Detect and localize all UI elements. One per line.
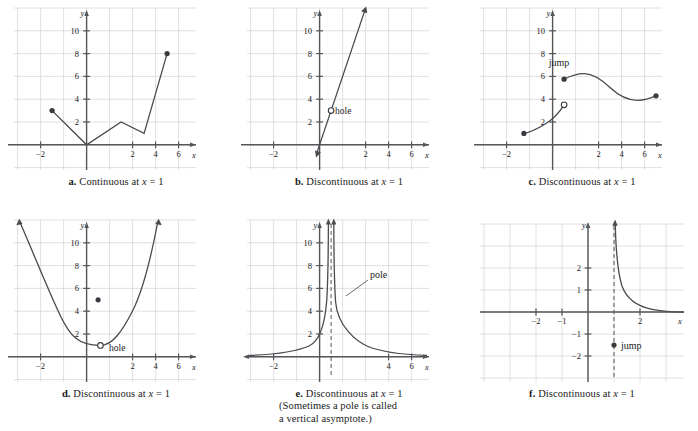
open-point-marker: [328, 108, 334, 114]
panel-c-caption: c. Discontinuous at x = 1: [466, 176, 698, 188]
panel-b-label: b.: [295, 176, 304, 187]
x-axis-label: x: [191, 150, 196, 160]
x-axis-label: x: [657, 150, 662, 160]
closed-point-marker: [165, 51, 170, 56]
svg-text:2: 2: [308, 329, 312, 339]
closed-point-marker: [611, 342, 616, 347]
x-axis-label: x: [191, 362, 196, 372]
panel-e-caption-line3: a vertical asymptote.): [233, 413, 465, 425]
x-axis-arrow-left: [243, 355, 249, 360]
panel-c-caption-eq: = 1: [619, 176, 636, 187]
y-axis-arrow: [84, 10, 89, 16]
panel-e-label: e.: [295, 388, 303, 399]
panel-d-caption: d. Discontinuous at x = 1: [0, 388, 232, 400]
grid-lines: [247, 220, 429, 382]
svg-text:6: 6: [308, 283, 312, 293]
hole-annotation: hole: [335, 106, 351, 116]
svg-text:10: 10: [304, 26, 313, 36]
panel-c: −2 2 4 6 2 4 6 8 10 x y jump c. Disconti…: [466, 0, 698, 215]
svg-text:6: 6: [308, 71, 312, 81]
panel-c-caption-text: Discontinuous at: [539, 176, 614, 187]
svg-text:−1: −1: [572, 329, 581, 339]
axes: [247, 226, 429, 382]
x-axis-arrow: [656, 143, 662, 148]
figure-sheet: −2 2 4 6 2 4 6 8 10 x y a. Continuous at…: [0, 0, 698, 431]
closed-point-marker: [562, 77, 567, 82]
panel-e-plot: −2 4 6 2 4 6 8 10 x y pole: [233, 212, 465, 390]
svg-text:4: 4: [619, 149, 624, 159]
x-axis-arrow: [190, 143, 196, 148]
svg-text:6: 6: [75, 283, 79, 293]
svg-text:−2: −2: [572, 351, 581, 361]
svg-text:−1: −1: [557, 316, 566, 326]
svg-text:10: 10: [537, 26, 546, 36]
curve-pole-right: [334, 224, 427, 356]
y-axis-arrow: [317, 222, 322, 228]
curve-parabola: [21, 224, 158, 346]
panel-e-caption-line2: (Sometimes a pole is called: [233, 400, 465, 412]
y-axis-label: y: [581, 220, 586, 230]
svg-text:8: 8: [75, 261, 79, 271]
svg-text:6: 6: [409, 361, 413, 371]
panel-e-caption-eq: = 1: [386, 388, 403, 399]
axes: [8, 226, 196, 382]
closed-point-marker: [96, 297, 101, 302]
svg-text:8: 8: [541, 49, 545, 59]
jump-annotation: jump: [620, 340, 642, 351]
x-axis-arrow: [190, 355, 196, 360]
y-axis-label: y: [80, 220, 85, 230]
y-axis-arrow: [550, 10, 555, 16]
curve-arrow-left-branch: [326, 219, 331, 225]
svg-text:8: 8: [308, 261, 312, 271]
panel-b: −2 2 4 6 2 4 6 8 10 x y hole b. Disconti…: [233, 0, 465, 215]
svg-text:6: 6: [176, 361, 180, 371]
svg-text:10: 10: [71, 238, 80, 248]
curve-hyperbola-branch: [615, 225, 684, 312]
panel-b-caption-eq: = 1: [386, 176, 403, 187]
panel-a-label: a.: [68, 176, 76, 187]
grid-lines: [14, 8, 196, 170]
closed-point-marker: [50, 108, 55, 113]
svg-text:6: 6: [75, 71, 79, 81]
panel-f-label: f.: [529, 388, 535, 399]
pole-annotation: pole: [370, 269, 388, 280]
panel-f-caption-eq: = 1: [618, 388, 635, 399]
svg-text:−2: −2: [36, 149, 45, 159]
hole-annotation: hole: [109, 343, 125, 353]
svg-text:2: 2: [638, 316, 642, 326]
panel-a-caption-eq: = 1: [147, 176, 164, 187]
svg-text:2: 2: [75, 117, 79, 127]
open-point-marker: [561, 102, 567, 108]
x-axis-label: x: [424, 362, 429, 372]
curve-arrow-right-branch: [331, 219, 336, 225]
axes: [8, 14, 196, 170]
svg-text:2: 2: [577, 263, 581, 273]
panel-c-label: c.: [528, 176, 536, 187]
panel-f: −2 −1 2 1 2 −1 −2 x y jump f. Discontinu…: [466, 212, 698, 427]
panel-d-label: d.: [62, 388, 71, 399]
svg-text:−2: −2: [36, 361, 45, 371]
svg-text:4: 4: [153, 149, 158, 159]
y-axis-label: y: [313, 8, 318, 18]
y-axis-arrow: [317, 10, 322, 16]
panel-a-caption-text: Continuous at: [79, 176, 142, 187]
svg-text:−2: −2: [269, 149, 278, 159]
panel-d: −2 2 4 6 2 4 6 8 10 x y hole d. Disconti…: [0, 212, 232, 427]
svg-text:6: 6: [541, 71, 545, 81]
tick-labels: −2 2 4 6 2 4 6 8 10: [502, 26, 647, 159]
curve-arrow-up: [612, 220, 617, 226]
panel-b-plot: −2 2 4 6 2 4 6 8 10 x y hole: [233, 0, 465, 178]
x-axis-label: x: [677, 316, 682, 326]
svg-text:8: 8: [75, 49, 79, 59]
axes: [241, 14, 429, 170]
closed-point-marker: [653, 93, 658, 98]
grid-lines: [480, 224, 684, 382]
panel-e-caption-text: Discontinuous at: [306, 388, 381, 399]
svg-text:8: 8: [308, 49, 312, 59]
axes: [480, 226, 684, 382]
svg-text:2: 2: [308, 117, 312, 127]
svg-text:−2: −2: [531, 316, 540, 326]
grid-lines: [480, 8, 662, 170]
curve-right-branch: [564, 74, 656, 101]
jump-annotation: jump: [548, 57, 570, 68]
